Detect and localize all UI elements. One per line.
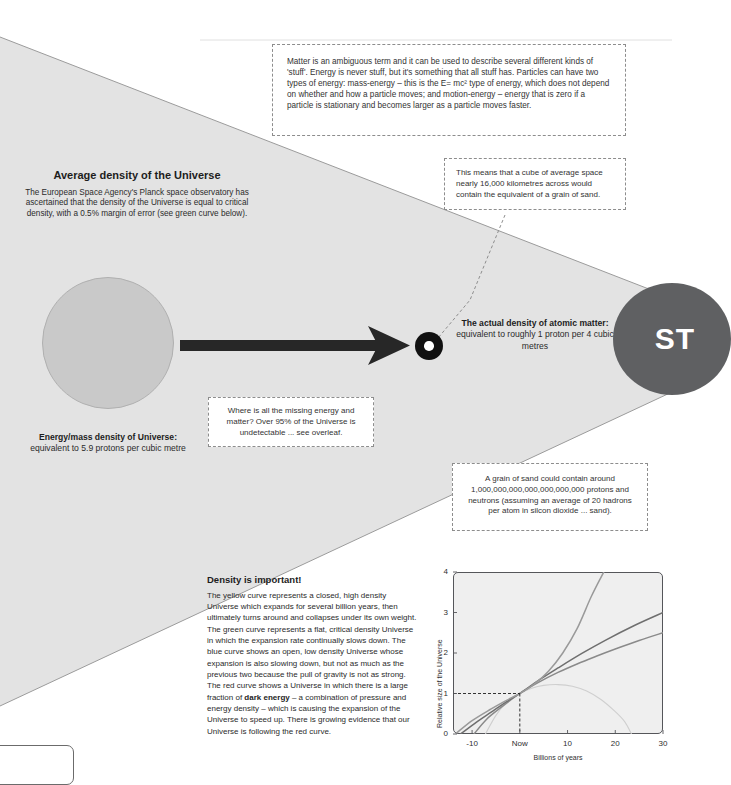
chart-series-1 xyxy=(474,633,663,734)
nucleus-dot xyxy=(424,341,434,351)
chart-xtick-label: 20 xyxy=(600,739,630,748)
chart-xtick-label: Now xyxy=(505,739,535,748)
atomic-matter-label-bold: The actual density of atomic matter: xyxy=(461,318,608,328)
callout-cube-of-space: This means that a cube of average space … xyxy=(444,158,626,210)
callout-missing-energy-text: Where is all the missing energy and matt… xyxy=(227,406,356,437)
chart-ytick-label: 4 xyxy=(433,567,448,576)
energy-mass-density-label-rest: equivalent to 5.9 protons per cubic metr… xyxy=(30,443,186,453)
energy-mass-density-label-bold: Energy/mass density of Universe: xyxy=(39,432,177,442)
st-circle: ST xyxy=(613,283,731,395)
st-circle-label: ST xyxy=(655,322,695,356)
average-density-body: The European Space Agency's Planck space… xyxy=(24,188,250,220)
energy-mass-density-label: Energy/mass density of Universe: equival… xyxy=(25,432,191,455)
chart-xtick-label: 10 xyxy=(553,739,583,748)
chart-xtick-label: -10 xyxy=(457,739,487,748)
callout-matter-energy-text: Matter is an ambiguous term and it can b… xyxy=(287,57,609,110)
chart-ytick-label: 2 xyxy=(433,648,448,657)
atomic-matter-dot xyxy=(415,332,443,360)
dark-energy-term: dark energy xyxy=(244,693,289,702)
chart-curves xyxy=(425,565,672,768)
energy-mass-density-circle xyxy=(42,277,174,409)
atomic-matter-label-rest: equivalent to roughly 1 proton per 4 cub… xyxy=(456,329,614,350)
chart-series-0 xyxy=(485,685,631,734)
chart-ytick-label: 0 xyxy=(433,729,448,738)
expansion-chart: Relative size of the Universe Billions o… xyxy=(425,565,672,768)
chart-ytick-label: 1 xyxy=(433,689,448,698)
average-density-heading: Average density of the Universe xyxy=(24,168,250,183)
bottom-left-partial-box xyxy=(0,745,74,785)
callout-missing-energy: Where is all the missing energy and matt… xyxy=(208,397,374,447)
callout-matter-energy: Matter is an ambiguous term and it can b… xyxy=(272,44,626,136)
chart-xlabel: Billions of years xyxy=(503,754,613,761)
callout-grain-of-sand: A grain of sand could contain around 1,0… xyxy=(452,463,648,531)
density-body-part1: The yellow curve represents a closed, hi… xyxy=(207,591,416,702)
atomic-matter-label: The actual density of atomic matter: equ… xyxy=(452,318,618,352)
chart-xtick-label: 30 xyxy=(648,739,678,748)
density-important-heading: Density is important! xyxy=(207,574,419,587)
chart-ytick-label: 3 xyxy=(433,608,448,617)
density-important-body: The yellow curve represents a closed, hi… xyxy=(207,590,419,738)
density-important-block: Density is important! The yellow curve r… xyxy=(207,574,419,737)
callout-cube-of-space-text: This means that a cube of average space … xyxy=(456,168,603,199)
callout-grain-of-sand-text: A grain of sand could contain around 1,0… xyxy=(468,474,632,515)
average-density-block: Average density of the Universe The Euro… xyxy=(24,168,250,220)
